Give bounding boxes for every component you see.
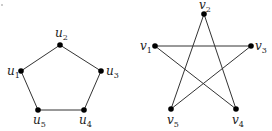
vertex-v1 (152, 43, 158, 49)
vertex-label-v4: v4 (232, 113, 244, 129)
edge-v3-v5 (171, 46, 251, 109)
vertex-label-v2: v2 (199, 0, 211, 14)
edge-u1-u2 (21, 45, 60, 71)
edge-u2-u3 (60, 45, 101, 71)
vertex-label-v5: v5 (167, 113, 179, 129)
vertex-u3 (98, 68, 104, 74)
vertex-label-u4: u4 (79, 113, 92, 129)
vertex-label-v1: v1 (140, 39, 152, 55)
graph-diagram: u1u2u3u4u5 v1v2v3v4v5 (0, 0, 272, 131)
vertex-label-u1: u1 (7, 64, 20, 80)
pentagon-graph: u1u2u3u4u5 (7, 26, 119, 129)
vertex-label-u3: u3 (106, 64, 119, 80)
edge-u5-u1 (21, 71, 38, 110)
vertex-v5 (168, 106, 174, 112)
edge-v1-v4 (155, 46, 236, 109)
vertex-label-u2: u2 (55, 26, 68, 42)
edge-u3-u4 (84, 71, 101, 110)
vertex-u2 (57, 42, 63, 48)
star-graph: v1v2v3v4v5 (140, 0, 267, 129)
corner-mark (1, 4, 3, 6)
vertex-u4 (81, 107, 87, 113)
edge-v2-v5 (171, 14, 204, 109)
vertex-v3 (248, 43, 254, 49)
vertex-label-v3: v3 (255, 39, 267, 55)
vertex-v4 (233, 106, 239, 112)
vertex-u5 (35, 107, 41, 113)
vertex-label-u5: u5 (33, 113, 46, 129)
